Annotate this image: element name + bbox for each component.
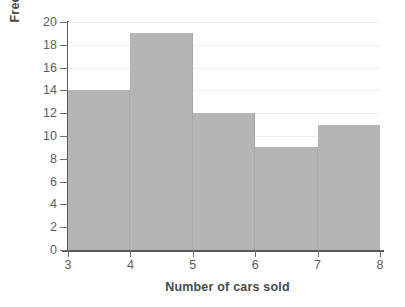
- x-tick-mark: [318, 250, 319, 257]
- y-tick-label: 10: [17, 130, 57, 143]
- x-tick-label: 4: [115, 259, 145, 272]
- y-axis-title: Frequency: [8, 0, 28, 70]
- y-tick-mark: [60, 250, 68, 251]
- gridline: [68, 45, 380, 46]
- histogram-bar: [255, 147, 317, 250]
- y-tick-mark: [60, 45, 68, 46]
- x-tick-mark: [68, 250, 69, 257]
- y-tick-mark: [60, 68, 68, 69]
- y-tick-label: 4: [17, 198, 57, 211]
- y-tick-mark: [60, 227, 68, 228]
- y-tick-label: 14: [17, 84, 57, 97]
- y-tick-mark: [60, 136, 68, 137]
- histogram-bar: [130, 33, 192, 250]
- y-tick-mark: [60, 90, 68, 91]
- y-tick-label: 0: [17, 244, 57, 257]
- y-tick-label: 2: [17, 221, 57, 234]
- x-tick-label: 5: [178, 259, 208, 272]
- histogram-bar: [193, 113, 255, 250]
- x-tick-mark: [255, 250, 256, 257]
- x-axis-line: [62, 250, 384, 252]
- y-tick-label: 6: [17, 176, 57, 189]
- y-tick-mark: [60, 22, 68, 23]
- y-tick-mark: [60, 159, 68, 160]
- y-tick-mark: [60, 204, 68, 205]
- x-tick-label: 8: [365, 259, 395, 272]
- y-tick-label: 16: [17, 62, 57, 75]
- x-tick-mark: [130, 250, 131, 257]
- x-tick-label: 3: [53, 259, 83, 272]
- histogram-chart: Frequency 02468101214161820 345678 Numbe…: [0, 0, 405, 307]
- x-tick-mark: [380, 250, 381, 257]
- y-tick-label: 18: [17, 39, 57, 52]
- y-tick-mark: [60, 113, 68, 114]
- y-tick-label: 8: [17, 153, 57, 166]
- plot-area: [68, 22, 380, 250]
- x-axis-title: Number of cars sold: [0, 280, 405, 294]
- histogram-bar: [318, 125, 380, 250]
- histogram-bar: [68, 90, 130, 250]
- gridline: [68, 22, 380, 23]
- y-tick-label: 20: [17, 16, 57, 29]
- gridline: [68, 68, 380, 69]
- x-tick-label: 7: [303, 259, 333, 272]
- x-tick-mark: [193, 250, 194, 257]
- y-tick-label: 12: [17, 107, 57, 120]
- x-tick-label: 6: [240, 259, 270, 272]
- y-tick-mark: [60, 182, 68, 183]
